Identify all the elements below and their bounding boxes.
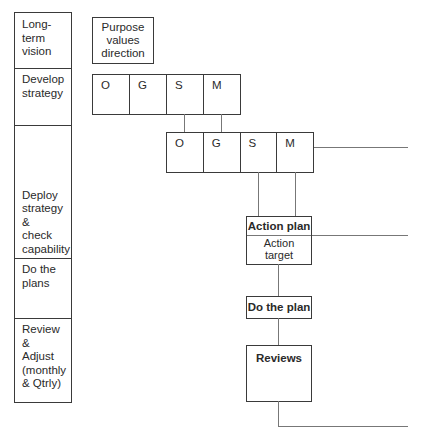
connector-s2-actionplan xyxy=(258,172,259,217)
ogsm2-objective: O xyxy=(167,133,204,172)
do-the-plan-box: Do the plan xyxy=(246,296,312,319)
connector-m2-actionplan xyxy=(295,172,296,217)
connector-reviews-right xyxy=(278,426,408,427)
action-plan-target: Action target xyxy=(247,236,311,261)
connector-do-reviews xyxy=(278,318,279,346)
connector-actionplan-do xyxy=(278,264,279,297)
ogsm2-measures: M xyxy=(277,133,313,172)
action-plan-title: Action plan xyxy=(247,217,311,236)
stage-review-adjust: Review & Adjust (monthly & Qtrly) xyxy=(14,318,72,403)
reviews-box: Reviews xyxy=(246,345,312,402)
stage-deploy-strategy-label: Deploy strategy & check capability xyxy=(22,189,70,257)
connector-reviews-down xyxy=(278,401,279,427)
action-plan-box: Action plan Action target xyxy=(246,216,312,265)
stage-do-the-plans: Do the plans xyxy=(14,258,72,319)
purpose-values-direction-box: Purpose values direction xyxy=(92,17,154,64)
connector-ogsm2-right xyxy=(314,147,408,148)
connector-actionplan-right xyxy=(312,235,408,236)
connector-s1-o2 xyxy=(184,114,185,133)
ogsm1-measures: M xyxy=(204,75,240,114)
ogsm1-strategies: S xyxy=(167,75,204,114)
connector-m1-g2 xyxy=(221,114,222,133)
ogsm1-goals: G xyxy=(130,75,167,114)
ogsm1-objective: O xyxy=(93,75,130,114)
stage-deploy-strategy: Deploy strategy & check capability xyxy=(14,125,72,259)
ogsm2-goals: G xyxy=(204,133,241,172)
stage-develop-strategy: Develop strategy xyxy=(14,68,72,126)
stage-long-term-vision: Long- term vision xyxy=(14,12,72,69)
ogsm-level1: O G S M xyxy=(92,74,241,115)
ogsm-level2: O G S M xyxy=(166,132,314,173)
ogsm2-strategies: S xyxy=(241,133,278,172)
